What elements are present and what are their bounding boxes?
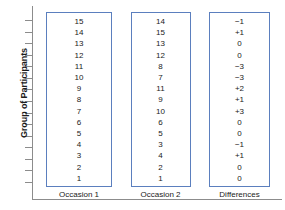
y-axis-line <box>32 6 33 200</box>
value-cell: 0 <box>210 51 269 60</box>
y-axis-tick <box>25 182 32 183</box>
value-cell: 14 <box>47 28 111 37</box>
y-axis-tick <box>25 170 32 171</box>
value-cell: +2 <box>210 84 269 93</box>
column-occasion-1: 151413121110987654321 Occasion 1 <box>46 12 112 204</box>
value-cell: 5 <box>132 129 190 138</box>
value-cell: 7 <box>132 73 190 82</box>
value-cell: 5 <box>47 129 111 138</box>
value-box-differences: −1+100−3−3+2+1+300−1+100 <box>209 12 270 187</box>
value-cell: 13 <box>47 39 111 48</box>
value-cell: 11 <box>47 62 111 71</box>
column-label-differences: Differences <box>209 190 270 200</box>
value-cell: 1 <box>47 174 111 183</box>
value-cell: 12 <box>47 51 111 60</box>
value-cell: 13 <box>132 39 190 48</box>
value-cell: 15 <box>132 28 190 37</box>
value-cell: 6 <box>132 118 190 127</box>
value-cell: 2 <box>132 163 190 172</box>
value-cell: −1 <box>210 140 269 149</box>
value-cell: 4 <box>47 140 111 149</box>
value-cell: 0 <box>210 174 269 183</box>
column-differences: −1+100−3−3+2+1+300−1+100 Differences <box>209 12 270 204</box>
value-cell: 10 <box>47 73 111 82</box>
value-cell: 10 <box>132 107 190 116</box>
value-cell: 9 <box>132 95 190 104</box>
value-cell: +1 <box>210 151 269 160</box>
value-cell: 0 <box>210 39 269 48</box>
value-cell: −3 <box>210 73 269 82</box>
value-cell: 0 <box>210 129 269 138</box>
value-cell: +1 <box>210 28 269 37</box>
value-cell: 6 <box>47 118 111 127</box>
y-axis-tick <box>25 20 32 21</box>
value-cell: +1 <box>210 95 269 104</box>
value-cell: 3 <box>132 140 190 149</box>
value-cell: 8 <box>132 62 190 71</box>
value-cell: 1 <box>132 174 190 183</box>
value-cell: 4 <box>132 151 190 160</box>
value-cell: +3 <box>210 107 269 116</box>
value-cell: 15 <box>47 17 111 26</box>
value-cell: 14 <box>132 17 190 26</box>
value-cell: 8 <box>47 95 111 104</box>
value-cell: −1 <box>210 17 269 26</box>
paired-data-figure: Group of Participants 151413121110987654… <box>0 0 285 210</box>
column-occasion-2: 141513128711910653421 Occasion 2 <box>131 12 191 204</box>
value-cell: 11 <box>132 84 190 93</box>
value-box-occasion-2: 141513128711910653421 <box>131 12 191 187</box>
column-label-occasion-2: Occasion 2 <box>131 190 191 200</box>
value-cell: 12 <box>132 51 190 60</box>
value-cell: 2 <box>47 163 111 172</box>
value-cell: 7 <box>47 107 111 116</box>
value-cell: 3 <box>47 151 111 160</box>
value-cell: 0 <box>210 163 269 172</box>
value-cell: −3 <box>210 62 269 71</box>
value-cell: 9 <box>47 84 111 93</box>
columns-container: 151413121110987654321 Occasion 1 1415131… <box>46 12 270 204</box>
column-label-occasion-1: Occasion 1 <box>46 190 112 200</box>
value-box-occasion-1: 151413121110987654321 <box>46 12 112 187</box>
y-axis-title: Group of Participants <box>19 23 29 163</box>
value-cell: 0 <box>210 118 269 127</box>
